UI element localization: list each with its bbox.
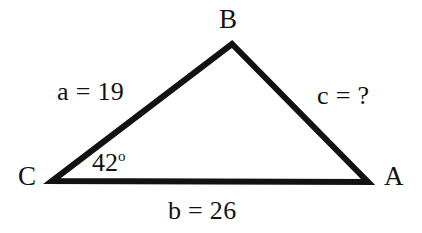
vertex-label-c: C bbox=[18, 163, 37, 190]
side-label-c: c = ? bbox=[317, 83, 369, 109]
angle-label-c: 42o bbox=[92, 150, 126, 176]
vertex-label-a: A bbox=[384, 163, 404, 190]
degree-symbol-icon: o bbox=[118, 148, 126, 164]
side-label-b: b = 26 bbox=[168, 198, 236, 224]
triangle-diagram-canvas: B C A a = 19 c = ? b = 26 42o bbox=[0, 0, 422, 233]
angle-value-c: 42 bbox=[92, 148, 118, 177]
vertex-label-b: B bbox=[219, 6, 238, 33]
side-label-a: a = 19 bbox=[57, 79, 124, 105]
